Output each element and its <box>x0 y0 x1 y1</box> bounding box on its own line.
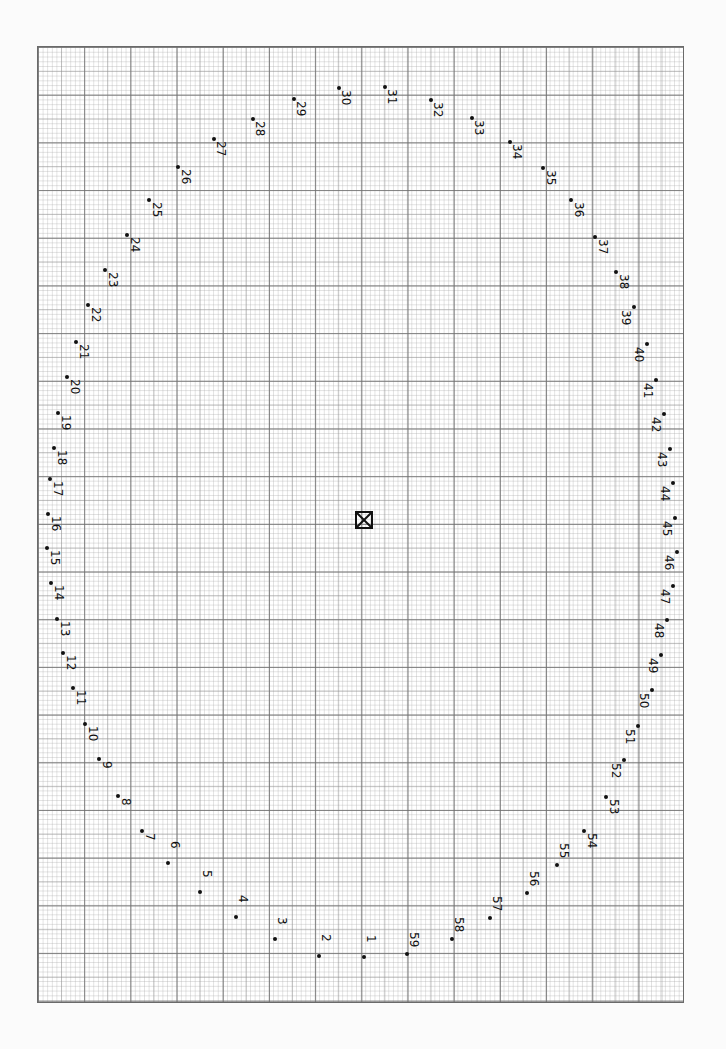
dot-point <box>555 863 559 867</box>
x-mark-icon <box>357 513 371 527</box>
dot-label: 8 <box>120 798 132 806</box>
dot-label: 29 <box>295 101 307 116</box>
dot-point <box>405 952 409 956</box>
dot-point <box>650 688 654 692</box>
dot-label: 36 <box>573 202 585 217</box>
dot-point <box>317 954 321 958</box>
dot-label: 40 <box>633 347 645 362</box>
dot-label: 4 <box>237 895 249 903</box>
dot-point <box>662 412 666 416</box>
dot-label: 28 <box>254 121 266 136</box>
dot-label: 50 <box>638 693 650 708</box>
dot-label: 18 <box>56 450 68 465</box>
dot-label: 26 <box>180 169 192 184</box>
dot-label: 14 <box>53 585 65 600</box>
dot-point <box>675 550 679 554</box>
dot-label: 31 <box>386 89 398 104</box>
dot-label: 49 <box>647 658 659 673</box>
dot-label: 23 <box>107 272 119 287</box>
dot-label: 41 <box>642 383 654 398</box>
dot-label: 54 <box>586 833 598 848</box>
center-boxed-x-icon <box>355 511 373 529</box>
dot-label: 9 <box>101 761 113 769</box>
dot-label: 15 <box>49 550 61 565</box>
dot-label: 34 <box>511 144 523 159</box>
dot-label: 45 <box>661 521 673 536</box>
dot-point <box>632 305 636 309</box>
dot-label: 3 <box>276 917 288 925</box>
dot-label: 7 <box>144 833 156 841</box>
dot-point <box>673 516 677 520</box>
dot-point <box>654 378 658 382</box>
dot-label: 5 <box>201 870 213 878</box>
dot-label: 37 <box>597 239 609 254</box>
dot-label: 17 <box>52 481 64 496</box>
dot-label: 20 <box>69 379 81 394</box>
dot-label: 10 <box>87 726 99 741</box>
dot-point <box>450 937 454 941</box>
dot-label: 16 <box>50 516 62 531</box>
dot-label: 59 <box>408 932 420 947</box>
dot-label: 58 <box>453 917 465 932</box>
dot-point <box>636 724 640 728</box>
dot-point <box>645 342 649 346</box>
dot-label: 47 <box>659 589 671 604</box>
dot-label: 33 <box>473 120 485 135</box>
dot-point <box>671 584 675 588</box>
dot-point <box>668 447 672 451</box>
dot-label: 21 <box>78 344 90 359</box>
dot-label: 27 <box>215 141 227 156</box>
dot-point <box>198 890 202 894</box>
dot-label: 56 <box>528 871 540 886</box>
dot-label: 44 <box>659 486 671 501</box>
dot-label: 52 <box>610 763 622 778</box>
dot-label: 6 <box>169 841 181 849</box>
dot-point <box>665 618 669 622</box>
dot-label: 1 <box>365 935 377 943</box>
dot-point <box>525 891 529 895</box>
dot-label: 32 <box>432 102 444 117</box>
dot-label: 19 <box>60 415 72 430</box>
dot-label: 35 <box>545 170 557 185</box>
dot-label: 53 <box>608 799 620 814</box>
dot-label: 13 <box>59 621 71 636</box>
dot-label: 39 <box>620 310 632 325</box>
dot-point <box>166 861 170 865</box>
dot-point <box>362 955 366 959</box>
dot-label: 30 <box>340 90 352 105</box>
dot-label: 2 <box>320 934 332 942</box>
dot-label: 12 <box>65 655 77 670</box>
dot-label: 25 <box>151 202 163 217</box>
dot-label: 51 <box>624 729 636 744</box>
dot-label: 24 <box>129 237 141 252</box>
dot-label: 11 <box>75 690 87 705</box>
dot-label: 42 <box>650 417 662 432</box>
dot-point <box>671 481 675 485</box>
dot-label: 48 <box>653 623 665 638</box>
dot-label: 57 <box>491 896 503 911</box>
dot-label: 46 <box>663 555 675 570</box>
dot-point <box>622 758 626 762</box>
dot-label: 22 <box>90 307 102 322</box>
dot-point <box>273 937 277 941</box>
dot-point <box>659 653 663 657</box>
dot-point <box>488 916 492 920</box>
dot-label: 38 <box>618 274 630 289</box>
dot-label: 55 <box>558 843 570 858</box>
dot-label: 43 <box>656 452 668 467</box>
dot-point <box>234 915 238 919</box>
